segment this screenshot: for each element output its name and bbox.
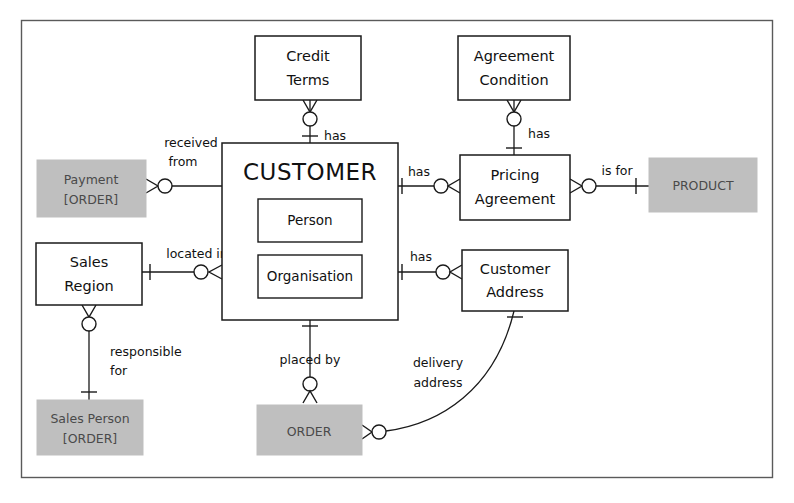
entity-label-organisation: Organisation [267,268,353,284]
relationship-sales-person-responsible-for[interactable]: responsible for [81,305,182,400]
rel-label-placed-by: placed by [280,352,341,367]
relationship-agreement-condition-has[interactable]: has [506,100,550,155]
entity-payment-order[interactable]: Payment [ORDER] [37,160,146,217]
relationship-customer-address-has[interactable]: has [398,249,462,281]
entity-label-payment-order-line2: [ORDER] [64,192,119,207]
entity-label-pricing-agreement-line1: Pricing [491,167,540,183]
rel-label-has-customer-address: has [410,249,432,264]
rel-label-responsible-for-line1: responsible [110,344,182,359]
entity-label-pricing-agreement-line2: Agreement [475,191,556,207]
entity-product[interactable]: PRODUCT [649,158,757,212]
entity-label-sales-region-line1: Sales [70,254,109,270]
entity-order[interactable]: ORDER [257,405,362,455]
entity-label-customer-address-line1: Customer [480,261,550,277]
relationship-product-is-for[interactable]: is for [570,163,649,195]
rel-label-located-in: located in [166,246,228,261]
relationship-pricing-agreement-has[interactable]: has [398,164,460,195]
entity-label-credit-terms-line1: Credit [286,48,330,64]
entity-sales-region[interactable]: Sales Region [36,243,142,305]
rel-label-delivery-address-line2: address [413,375,462,390]
entity-label-sales-region-line2: Region [64,278,114,294]
entity-agreement-condition[interactable]: Agreement Condition [458,36,570,100]
relationship-sales-region-located-in[interactable]: located in [142,246,228,281]
relationship-order-delivery-address[interactable]: delivery address [362,311,523,439]
entity-label-payment-order-line1: Payment [64,172,119,187]
entity-sales-person-order[interactable]: Sales Person [ORDER] [37,400,143,455]
rel-label-has-pricing-agreement: has [408,164,430,179]
entity-customer-address[interactable]: Customer Address [462,250,568,311]
rel-label-is-for: is for [601,163,633,178]
rel-label-responsible-for-line2: for [110,363,128,378]
entity-label-agreement-condition-line1: Agreement [474,48,555,64]
er-diagram-svg: has has received from [0,0,794,503]
er-diagram-canvas: has has received from [0,0,794,503]
entity-subtype-person[interactable]: Person [258,199,362,242]
rel-label-received-from-line2: from [168,154,197,169]
entity-label-customer: CUSTOMER [243,159,377,185]
rel-label-received-from-line1: received [164,135,218,150]
rel-label-has-credit-terms: has [324,128,346,143]
entity-label-credit-terms-line2: Terms [286,72,330,88]
entity-credit-terms[interactable]: Credit Terms [255,36,361,100]
entities-layer: Credit Terms Agreement Condition Payment… [36,36,757,455]
entity-customer[interactable]: CUSTOMER Person Organisation [222,143,398,320]
entity-pricing-agreement[interactable]: Pricing Agreement [460,155,570,220]
entity-subtype-organisation[interactable]: Organisation [258,255,362,298]
entity-label-agreement-condition-line2: Condition [479,72,548,88]
rel-label-has-agreement-condition: has [528,126,550,141]
relationship-credit-terms-has[interactable]: has [302,100,346,143]
entity-label-sales-person-order-line1: Sales Person [50,411,129,426]
rel-label-delivery-address-line1: delivery [413,355,464,370]
entity-label-order: ORDER [287,424,332,439]
entity-label-customer-address-line2: Address [486,284,544,300]
entity-label-sales-person-order-line2: [ORDER] [63,431,118,446]
entity-label-product: PRODUCT [672,178,734,193]
entity-label-person: Person [287,212,332,228]
relationship-payment-received-from[interactable]: received from [146,135,222,194]
relationship-order-placed-by[interactable]: placed by [280,320,341,403]
